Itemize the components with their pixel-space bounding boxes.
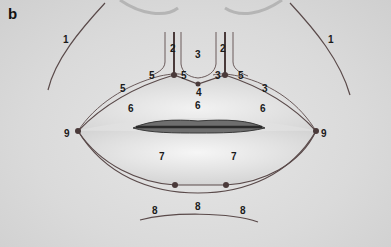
label-2-left: 2 [170, 43, 176, 54]
label-3-right: 3 [215, 70, 221, 81]
label-5-inner-left: 5 [181, 70, 187, 81]
label-6-left: 6 [128, 103, 134, 114]
label-1-right: 1 [328, 34, 334, 45]
arc-zone-1-right [290, 3, 350, 95]
peak-point-right [222, 72, 228, 78]
diagram-canvas: b 1 1 2 2 3 5 3 4 5 5 5 3 6 6 6 9 9 7 7 … [0, 0, 391, 247]
label-8-left: 8 [152, 205, 158, 216]
lower-lip [78, 131, 316, 185]
lower-point-left [172, 182, 178, 188]
lip-anatomy-figure: b 1 1 2 2 3 5 3 4 5 5 5 3 6 6 6 9 9 7 7 … [0, 0, 391, 247]
nose-shadow [120, 0, 282, 14]
cupid-bow-point [196, 82, 201, 87]
label-5-left: 5 [149, 70, 155, 81]
label-5-far-left: 5 [120, 83, 126, 94]
peak-point-left [171, 72, 177, 78]
label-9-right: 9 [321, 128, 327, 139]
label-7-right: 7 [231, 151, 237, 162]
label-6-right: 6 [260, 103, 266, 114]
panel-letter: b [8, 5, 17, 22]
label-3-top: 3 [195, 49, 201, 60]
label-2-right: 2 [220, 43, 226, 54]
philtrum-right-inner [198, 32, 216, 78]
label-7-left: 7 [159, 151, 165, 162]
label-4: 4 [196, 87, 202, 98]
label-1-left: 1 [63, 34, 69, 45]
lower-point-right [223, 182, 229, 188]
label-5-right: 5 [238, 70, 244, 81]
label-8-right: 8 [240, 205, 246, 216]
label-6-center: 6 [195, 100, 201, 111]
label-5-far-right: 3 [262, 83, 268, 94]
commissure-left [75, 128, 81, 134]
label-9-left: 9 [64, 128, 70, 139]
commissure-right [313, 128, 319, 134]
label-8-center: 8 [195, 201, 201, 212]
arc-zone-1-left [48, 3, 105, 90]
